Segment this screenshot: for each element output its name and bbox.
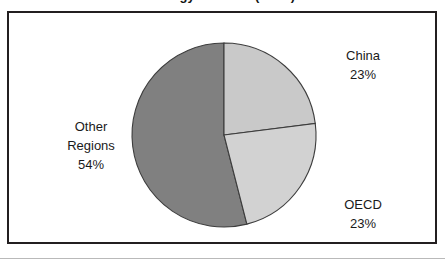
pie-label-china-name: China xyxy=(315,46,411,65)
chart-title: Energy Demand (Mtoe) xyxy=(0,0,445,3)
pie-label-oecd: OECD 23% xyxy=(315,195,411,233)
chart-plot-frame: China 23% OECD 23% Other Regions 54% xyxy=(7,11,437,244)
pie-label-other-regions-value: 54% xyxy=(43,155,139,174)
bottom-divider xyxy=(0,258,445,259)
pie-label-oecd-value: 23% xyxy=(315,214,411,233)
pie-label-oecd-name: OECD xyxy=(315,195,411,214)
pie-label-china: China 23% xyxy=(315,46,411,84)
pie-label-china-value: 23% xyxy=(315,65,411,84)
pie-label-other-regions-line2: Regions xyxy=(43,136,139,155)
pie-slice-china[interactable] xyxy=(224,43,315,135)
pie-label-other-regions-line1: Other xyxy=(43,117,139,136)
pie-label-other-regions: Other Regions 54% xyxy=(43,117,139,174)
